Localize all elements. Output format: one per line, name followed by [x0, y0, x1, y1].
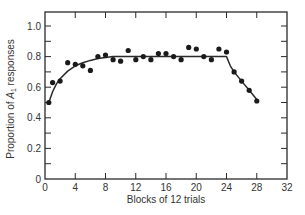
x-tick-label: 24: [221, 182, 233, 193]
data-point: [103, 53, 108, 58]
y-tick-label: 0.4: [27, 112, 41, 123]
data-point: [126, 48, 131, 53]
x-tick-label: 0: [42, 182, 48, 193]
x-tick-label: 20: [191, 182, 203, 193]
data-point: [216, 46, 221, 51]
data-point: [111, 57, 116, 62]
x-tick-label: 12: [130, 182, 142, 193]
axis-ticks: 04812162024283200.20.40.60.81.0: [27, 12, 293, 193]
x-tick-label: 8: [103, 182, 109, 193]
y-tick-label: 1.0: [27, 21, 41, 32]
data-point: [133, 57, 138, 62]
data-point: [254, 98, 259, 103]
y-tick-label: 0.6: [27, 82, 41, 93]
y-tick-label: 0.8: [27, 51, 41, 62]
x-tick-label: 4: [72, 182, 78, 193]
data-point: [179, 57, 184, 62]
data-point: [186, 45, 191, 50]
data-point: [232, 69, 237, 74]
data-points: [46, 45, 259, 105]
data-point: [194, 46, 199, 51]
theoretical-curve: [49, 57, 257, 103]
data-point: [50, 80, 55, 85]
y-tick-label: 0: [35, 174, 41, 185]
data-point: [141, 54, 146, 59]
plot-area: [45, 12, 287, 179]
data-point: [239, 79, 244, 84]
x-tick-label: 16: [160, 182, 172, 193]
data-point: [224, 49, 229, 54]
data-point: [95, 54, 100, 59]
data-point: [148, 57, 153, 62]
data-point: [171, 54, 176, 59]
data-point: [201, 54, 206, 59]
y-axis-title-tail: responses: [5, 39, 16, 88]
y-axis-title: Proportion of A1 responses: [5, 39, 17, 159]
data-point: [80, 63, 85, 68]
data-point: [247, 88, 252, 93]
data-point: [88, 68, 93, 73]
data-point: [73, 62, 78, 67]
theoretical-curve-path: [49, 57, 257, 103]
x-axis-title: Blocks of 12 trials: [127, 194, 205, 205]
data-point: [156, 51, 161, 56]
data-point: [58, 79, 63, 84]
plot-frame: [45, 12, 287, 179]
data-point: [65, 60, 70, 65]
x-tick-label: 32: [281, 182, 293, 193]
data-point: [118, 59, 123, 64]
y-tick-label: 0.2: [27, 143, 41, 154]
data-point: [209, 57, 214, 62]
data-point: [46, 100, 51, 105]
x-tick-label: 28: [251, 182, 263, 193]
data-point: [163, 51, 168, 56]
y-axis-title-main: Proportion of: [5, 99, 16, 159]
chart-figure: 04812162024283200.20.40.60.81.0 Blocks o…: [0, 0, 305, 215]
